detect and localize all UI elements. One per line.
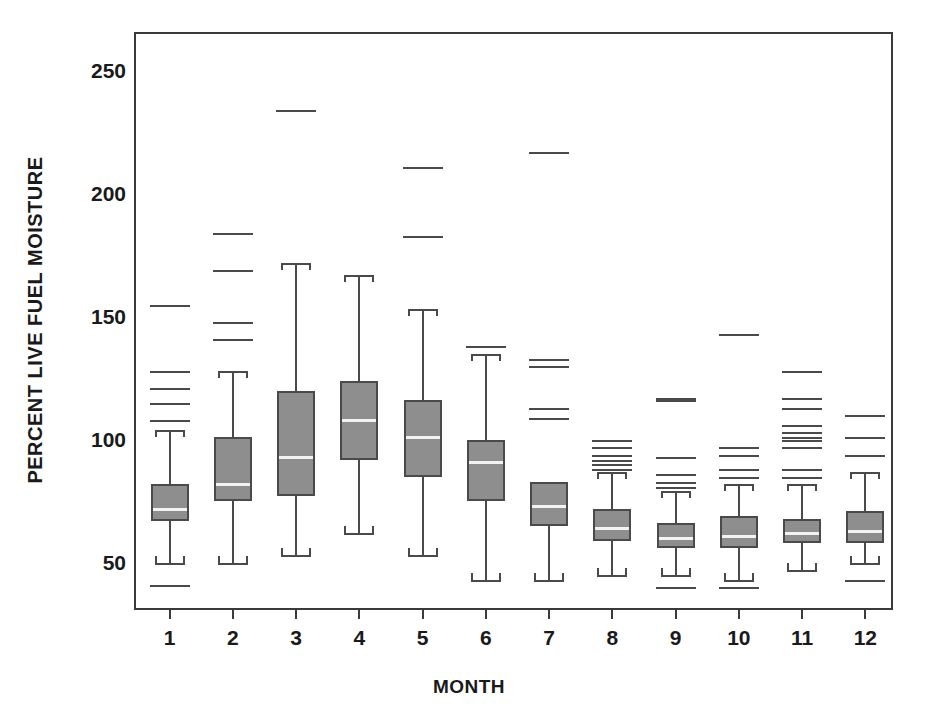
- x-axis-tick-mark: [295, 608, 297, 619]
- x-axis-tick-label: 12: [854, 626, 877, 650]
- y-axis-tick-label: 250: [56, 59, 126, 83]
- whisker-cap-end: [878, 472, 880, 479]
- x-axis-tick-label: 1: [164, 626, 176, 650]
- x-axis-tick-label: 11: [791, 626, 813, 650]
- plot-area: 50100150200250123456789101112: [134, 32, 893, 610]
- y-axis-tick-label: 150: [56, 305, 126, 329]
- x-axis-tick-mark: [422, 608, 424, 619]
- y-axis-tick-label: 100: [56, 428, 126, 452]
- x-axis-tick-label: 7: [543, 626, 555, 650]
- whisker-cap-end: [878, 556, 880, 563]
- box-iqr: [846, 511, 884, 543]
- x-axis-tick-mark: [611, 608, 613, 619]
- x-axis-tick-label: 3: [290, 626, 302, 650]
- x-axis-tick-label: 8: [607, 626, 619, 650]
- outlier-marker: [845, 415, 885, 417]
- whisker-cap: [850, 563, 880, 565]
- y-axis-tick-label: 200: [56, 182, 126, 206]
- box-plot-group: [136, 34, 895, 608]
- outlier-marker: [845, 580, 885, 582]
- x-axis-tick-mark: [548, 608, 550, 619]
- whisker-stem: [864, 543, 866, 563]
- x-axis-tick-label: 5: [417, 626, 429, 650]
- whisker-cap-end: [850, 556, 852, 563]
- x-axis-tick-mark: [801, 608, 803, 619]
- whisker-stem: [864, 472, 866, 511]
- x-axis-tick-mark: [675, 608, 677, 619]
- x-axis-tick-mark: [358, 608, 360, 619]
- x-axis-tick-label: 6: [480, 626, 492, 650]
- whisker-cap-end: [850, 472, 852, 479]
- x-axis-tick-label: 4: [354, 626, 366, 650]
- outlier-marker: [845, 437, 885, 439]
- median-line: [848, 530, 882, 533]
- x-axis-tick-label: 10: [727, 626, 750, 650]
- y-axis-tick-label: 50: [56, 551, 126, 575]
- x-axis-tick-mark: [232, 608, 234, 619]
- x-axis-tick-mark: [738, 608, 740, 619]
- x-axis-tick-mark: [485, 608, 487, 619]
- box-plot-chart: PERCENT LIVE FUEL MOISTURE 5010015020025…: [0, 0, 938, 718]
- x-axis-title: MONTH: [0, 676, 938, 698]
- x-axis-tick-label: 9: [670, 626, 682, 650]
- outlier-marker: [845, 455, 885, 457]
- x-axis-tick-label: 2: [227, 626, 239, 650]
- y-axis-title: PERCENT LIVE FUEL MOISTURE: [22, 0, 48, 640]
- x-axis-tick-mark: [864, 608, 866, 619]
- x-axis-tick-mark: [169, 608, 171, 619]
